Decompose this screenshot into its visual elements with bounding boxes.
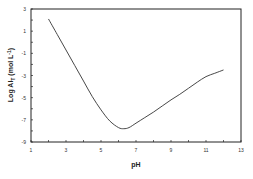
x-tick-label: 1 (30, 147, 33, 153)
x-tick-label: 7 (135, 147, 138, 153)
x-tick-label: 9 (170, 147, 173, 153)
y-axis-title: Log AlT (mol L-1) (6, 48, 16, 102)
x-axis-title: pH (131, 161, 140, 169)
x-tick-label: 13 (238, 147, 244, 153)
y-tick-label: -9 (22, 139, 27, 145)
chart: 135791113 -9-7-5-3-113 pH Log AlT (mol L… (0, 0, 253, 179)
y-tick-label: -5 (22, 95, 27, 101)
y-tick-label: -1 (22, 50, 27, 56)
x-tick-label: 5 (100, 147, 103, 153)
y-tick-label: 1 (23, 28, 26, 34)
y-tick-label: 3 (23, 6, 26, 12)
y-tick-label: -3 (22, 73, 27, 79)
x-tick-label: 3 (65, 147, 68, 153)
x-tick-label: 11 (203, 147, 208, 153)
data-line (49, 19, 224, 129)
y-tick-label: -7 (22, 117, 27, 123)
